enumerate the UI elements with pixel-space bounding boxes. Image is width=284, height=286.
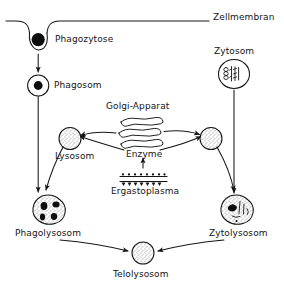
label-lysosom: Lysosom (55, 152, 94, 161)
label-phagozytose: Phagozytose (55, 35, 113, 44)
label-phagosom: Phagosom (54, 81, 102, 90)
label-golgi-apparat: Golgi-Apparat (106, 102, 169, 111)
diagram-svg (0, 0, 284, 286)
arrow-enzyme-lysosom-left (80, 137, 124, 151)
arrow-lysosom-zytolysosom (217, 147, 234, 191)
label-ergastoplasma: Ergastoplasma (111, 187, 179, 196)
golgi-apparatus (119, 117, 163, 148)
diagram-canvas: Zellmembran Phagozytose Phagosom Zytosom… (0, 0, 284, 286)
arrow-enzyme-lysosom-right (160, 137, 201, 151)
label-phagolysosom: Phagolysosom (15, 229, 81, 238)
arrow-zytolysosom-telolysosom (158, 240, 224, 251)
phagolysosom-node (33, 195, 66, 224)
label-zellmembran: Zellmembran (213, 13, 275, 22)
telolysosom-node (132, 242, 154, 264)
ergastoplasma-node (120, 173, 167, 186)
phagocytosis-vesicle (29, 33, 47, 50)
label-zytolysosom: Zytolysosom (209, 229, 268, 238)
arrow-golgi-lysosom-right (164, 131, 200, 135)
lysosom-right-node (200, 128, 222, 150)
label-telolysosom: Telolysosom (113, 270, 169, 279)
zytolysosom-node (221, 195, 254, 224)
zytosom-node (219, 60, 250, 89)
cell-membrane (6, 21, 209, 33)
arrow-phagolysosom-telolysosom (60, 240, 128, 251)
label-enzyme: Enzyme (126, 150, 162, 159)
arrow-golgi-lysosom-left (81, 132, 117, 135)
label-zytosom: Zytosom (214, 47, 254, 56)
phagosom-node (28, 75, 49, 96)
lysosom-left-node (59, 128, 81, 150)
